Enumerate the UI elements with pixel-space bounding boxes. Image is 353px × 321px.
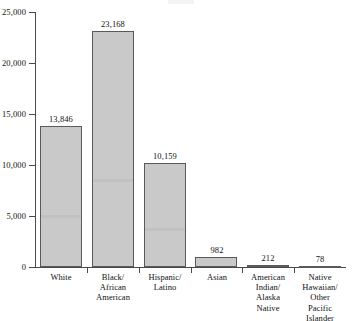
bar-chart: 25,00020,00015,00010,0005,0000 13,84623,… bbox=[0, 0, 353, 321]
bar bbox=[40, 126, 82, 267]
y-tick-label: 25,000 bbox=[2, 8, 26, 17]
category-label-line: Latino bbox=[139, 282, 191, 292]
category-label-line: Native bbox=[242, 303, 294, 313]
category-label-line: Pacific bbox=[294, 303, 346, 313]
y-tick-mark bbox=[29, 63, 35, 64]
category-label-line: Indian/ bbox=[242, 282, 294, 292]
y-tick-mark bbox=[29, 165, 35, 166]
y-tick-mark bbox=[29, 12, 35, 13]
bar-value-label: 13,846 bbox=[35, 115, 87, 124]
category-label-line: Islander bbox=[294, 313, 346, 321]
category-label-line: American bbox=[242, 272, 294, 282]
y-tick-label: 20,000 bbox=[2, 59, 26, 68]
category-label-line: Black/ bbox=[87, 272, 139, 282]
category-label: Black/AfricanAmerican bbox=[87, 272, 139, 303]
category-label-line: African bbox=[87, 282, 139, 292]
y-tick-mark bbox=[29, 267, 35, 268]
category-label-line: Other bbox=[294, 292, 346, 302]
y-tick-mark bbox=[29, 216, 35, 217]
category-label: White bbox=[35, 272, 87, 282]
bar bbox=[299, 266, 341, 268]
category-label-line: American bbox=[87, 292, 139, 302]
bar bbox=[247, 265, 289, 267]
category-label-line: Asian bbox=[191, 272, 243, 282]
bar-band bbox=[41, 215, 81, 218]
bar bbox=[195, 257, 237, 267]
category-label: AmericanIndian/AlaskaNative bbox=[242, 272, 294, 313]
y-tick-label: 5,000 bbox=[6, 212, 26, 221]
y-tick-label: 10,000 bbox=[2, 161, 26, 170]
category-label-line: Hawaiian/ bbox=[294, 282, 346, 292]
category-label-line: Native bbox=[294, 272, 346, 282]
category-label-line: White bbox=[35, 272, 87, 282]
bar-value-label: 10,159 bbox=[139, 152, 191, 161]
bar bbox=[92, 31, 134, 267]
bar bbox=[144, 163, 186, 267]
y-tick-label: 15,000 bbox=[2, 110, 26, 119]
bar-value-label: 982 bbox=[191, 246, 243, 255]
category-label: Hispanic/Latino bbox=[139, 272, 191, 292]
page-artifact-mark bbox=[168, 0, 194, 4]
category-label: NativeHawaiian/OtherPacificIslander bbox=[294, 272, 346, 321]
category-label-line: Hispanic/ bbox=[139, 272, 191, 282]
bar-band bbox=[145, 228, 185, 231]
bar-value-label: 212 bbox=[242, 254, 294, 263]
bar-value-label: 78 bbox=[294, 255, 346, 264]
category-label: Asian bbox=[191, 272, 243, 282]
y-axis-line bbox=[35, 12, 36, 268]
bar-value-label: 23,168 bbox=[87, 20, 139, 29]
y-tick-label: 0 bbox=[22, 263, 26, 272]
bar-band bbox=[93, 179, 133, 182]
category-label-line: Alaska bbox=[242, 292, 294, 302]
